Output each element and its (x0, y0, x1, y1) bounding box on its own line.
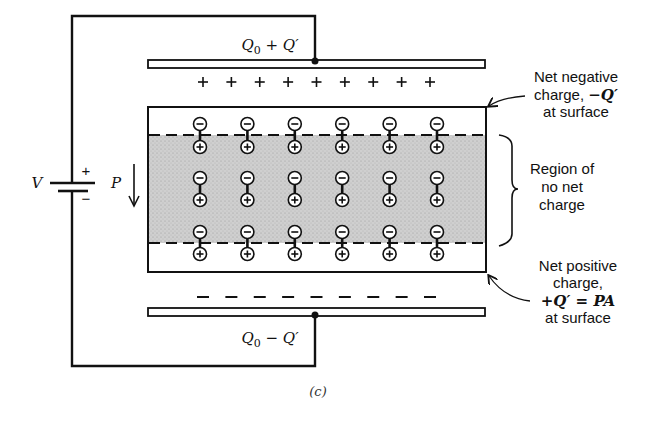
annotation-net-positive: Net positive charge, +Q′ = PA at surface (489, 257, 617, 326)
annotation-text: Region of (530, 160, 595, 177)
plus-charge-icon (340, 77, 350, 87)
top-plate-charge-label: Q0 + Q′ (241, 36, 299, 57)
annotation-math: +Q′ = PA (541, 292, 615, 310)
down-arrow-icon (129, 164, 139, 206)
capacitor-dielectric-diagram: V + − P Q0 + Q′ Q0 − Q′ Net negative (0, 0, 657, 421)
battery-minus-sign: − (82, 190, 91, 207)
bottom-junction-dot (312, 312, 319, 319)
plus-charge-icon (368, 77, 378, 87)
battery-label: V (32, 174, 45, 192)
figure-caption: (c) (309, 384, 326, 399)
dielectric-slab (148, 107, 486, 272)
pointer-arrow-icon (489, 96, 525, 106)
annotation-text: Net positive (539, 257, 617, 274)
polarization-indicator: P (110, 164, 139, 206)
pointer-arrow-icon (489, 276, 530, 301)
annotation-text: at surface (543, 103, 609, 120)
plus-charge-icon (312, 77, 322, 87)
plus-charge-icon (397, 77, 407, 87)
annotation-no-net-charge: Region of no net charge (499, 135, 595, 246)
annotation-net-negative: Net negative charge, −Q′ at surface (489, 68, 618, 120)
annotation-text: no net (541, 178, 584, 195)
bottom-plate-charge-label: Q0 − Q′ (241, 329, 299, 350)
polarization-label: P (110, 174, 122, 192)
top-surface-positive-charges (198, 77, 435, 87)
annotation-text: charge, (553, 274, 603, 291)
plus-charge-icon (226, 77, 236, 87)
plus-charge-icon (255, 77, 265, 87)
top-junction-dot (312, 58, 319, 65)
battery-plus-sign: + (82, 162, 91, 179)
plus-charge-icon (198, 77, 208, 87)
plus-charge-icon (283, 77, 293, 87)
plus-charge-icon (425, 77, 435, 87)
annotation-text: charge (539, 196, 585, 213)
annotation-text: Net negative (534, 68, 618, 85)
annotation-text: charge, −Q′ (534, 86, 618, 104)
battery: V + − (32, 162, 95, 207)
curly-brace-icon (499, 135, 518, 246)
annotation-text: at surface (545, 309, 611, 326)
